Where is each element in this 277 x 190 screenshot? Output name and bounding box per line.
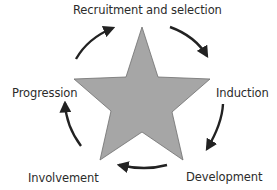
stage-label-induction: Induction <box>216 88 269 100</box>
star-shape <box>74 27 210 160</box>
stage-label-progression: Progression <box>12 88 78 100</box>
stage-label-involvement: Involvement <box>28 173 99 185</box>
arrow-induction-to-development <box>207 104 223 149</box>
arrow-progression-to-recruitment <box>76 28 113 59</box>
arrow-involvement-to-progression <box>65 103 81 146</box>
cycle-diagram: Recruitment and selection Induction Deve… <box>0 0 277 190</box>
arrow-recruitment-to-induction <box>170 27 207 56</box>
stage-label-development: Development <box>186 172 262 184</box>
stage-label-recruitment-and-selection: Recruitment and selection <box>73 5 222 17</box>
arrow-development-to-involvement <box>119 165 167 168</box>
